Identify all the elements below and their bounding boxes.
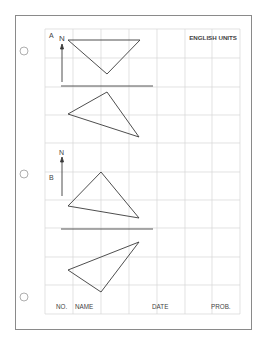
triangle-b-top: [68, 172, 139, 218]
problem-a-label: A: [49, 32, 54, 39]
worksheet-drawing: ENGLISH UNITS A N N B NO. NAME DATE PROB…: [0, 0, 266, 343]
footer-date-label: DATE: [152, 303, 168, 310]
footer-prob-label: PROB.: [211, 303, 231, 310]
binder-hole-middle: [20, 170, 28, 178]
triangle-b-bottom: [68, 242, 139, 292]
north-label-a: N: [59, 34, 65, 43]
footer-no-label: NO.: [56, 303, 67, 310]
grid: [45, 29, 240, 314]
north-arrow-icon: [61, 157, 64, 196]
binder-hole-top: [20, 47, 28, 55]
north-label-b: N: [59, 149, 64, 156]
problem-b-label: B: [49, 174, 54, 181]
footer-name-label: NAME: [75, 303, 93, 310]
north-arrow-icon: [61, 44, 64, 82]
binder-hole-bottom: [20, 293, 28, 301]
units-label: ENGLISH UNITS: [189, 34, 237, 41]
triangle-a-bottom: [68, 92, 139, 137]
